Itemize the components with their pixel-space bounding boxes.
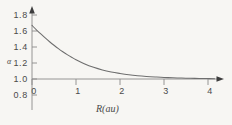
y-tick-label-1.4: 1.4 bbox=[2, 43, 28, 52]
y-tick-marks bbox=[32, 15, 37, 95]
data-series-line bbox=[32, 25, 215, 78]
y-tick-label-1.2: 1.2 bbox=[2, 59, 28, 68]
y-tick-label-1.6: 1.6 bbox=[2, 27, 28, 36]
figure-container: 1.8 1.6 1.4 1.2 1.0 0.8 0 1 2 3 4 R(au) … bbox=[0, 0, 232, 125]
y-axis-arrowhead bbox=[29, 6, 35, 14]
x-tick-marks bbox=[32, 79, 208, 85]
x-axis-title: R(au) bbox=[96, 104, 119, 114]
x-tick-label-2: 2 bbox=[117, 87, 127, 96]
y-tick-label-0.8: 0.8 bbox=[2, 91, 28, 100]
x-tick-label-4: 4 bbox=[205, 87, 215, 96]
x-axis bbox=[32, 76, 224, 82]
y-axis-title: α bbox=[7, 58, 11, 66]
y-tick-label-1.8: 1.8 bbox=[2, 11, 28, 20]
x-tick-label-3: 3 bbox=[161, 87, 171, 96]
x-axis-arrowhead bbox=[217, 76, 225, 82]
x-tick-label-0: 0 bbox=[29, 87, 39, 96]
x-tick-label-1: 1 bbox=[73, 87, 83, 96]
y-tick-label-1.0: 1.0 bbox=[2, 75, 28, 84]
